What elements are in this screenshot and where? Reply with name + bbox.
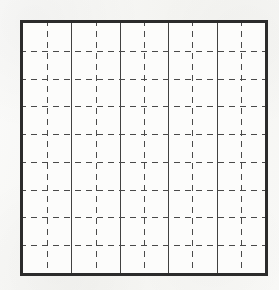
grid-vertical-solid-4 [217,23,218,273]
grid-horizontal-dashed-5 [23,162,265,163]
grid-horizontal-dashed-3 [23,106,265,107]
grid-horizontal-dashed-6 [23,190,265,191]
grid-vertical-dashed-2 [96,23,97,273]
grid-horizontal-dashed-4 [23,134,265,135]
grid-vertical-solid-3 [168,23,169,273]
grid-interior [23,23,265,273]
grid-horizontal-dashed-2 [23,79,265,80]
grid-horizontal-dashed-1 [23,51,265,52]
figure-canvas [0,0,279,290]
grid-vertical-solid-1 [71,23,72,273]
grid-horizontal-dashed-7 [23,217,265,218]
grid-vertical-dashed-3 [144,23,145,273]
grid-vertical-dashed-1 [47,23,48,273]
grid-vertical-solid-2 [120,23,121,273]
grid-vertical-dashed-5 [241,23,242,273]
grid-vertical-dashed-4 [192,23,193,273]
grid-horizontal-dashed-8 [23,245,265,246]
grid-figure [20,20,268,276]
